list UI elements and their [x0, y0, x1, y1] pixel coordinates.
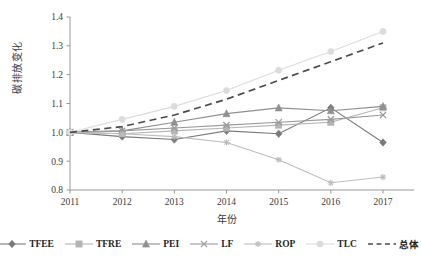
legend-item-总体[interactable]: 总体: [367, 237, 421, 251]
data-point-asterisk: [171, 134, 177, 140]
legend-glyph-TFRE: [64, 237, 94, 251]
data-point-circle: [171, 103, 177, 109]
data-point-diamond: [9, 240, 16, 247]
y-tick-label: 1.4: [51, 12, 63, 22]
data-point-circle: [276, 67, 282, 73]
data-point-circle: [328, 49, 334, 55]
data-point-asterisk: [255, 241, 261, 247]
legend-label-总体: 总体: [399, 237, 419, 251]
x-tick-label: 2014: [217, 197, 236, 207]
legend-label-PEI: PEI: [163, 239, 179, 249]
y-tick-label: 0.8: [51, 185, 63, 195]
data-point-asterisk: [276, 157, 282, 163]
series-TLC: [67, 28, 386, 135]
circle-marker: [328, 49, 334, 55]
legend-item-TLC[interactable]: TLC: [305, 237, 359, 251]
x-tick-label: 2016: [321, 197, 340, 207]
diamond-marker: [380, 139, 387, 146]
circle-marker: [223, 87, 229, 93]
legend-label-TLC: TLC: [337, 239, 357, 249]
data-point-circle: [119, 116, 125, 122]
x-tick-label: 2012: [113, 197, 132, 207]
legend-item-TFEE[interactable]: TFEE: [0, 237, 56, 251]
diamond-marker: [275, 130, 282, 137]
line-chart-svg: 0.80.91.01.11.21.31.42011201220132014201…: [0, 0, 418, 225]
x-tick-label: 2017: [374, 197, 393, 207]
square-marker: [76, 241, 82, 247]
data-point-diamond: [275, 130, 282, 137]
y-tick-label: 1.1: [51, 99, 63, 109]
legend-label-TFRE: TFRE: [96, 239, 121, 249]
legend-glyph-LF: [189, 237, 219, 251]
data-point-asterisk: [328, 180, 334, 186]
chart-legend: TFEETFREPEILFROPTLC总体: [0, 232, 418, 256]
data-point-circle: [223, 87, 229, 93]
circle-marker: [380, 28, 386, 34]
data-point-circle: [380, 28, 386, 34]
legend-item-TFRE[interactable]: TFRE: [64, 237, 123, 251]
series-ROP: [67, 129, 386, 186]
y-tick-label: 1.3: [51, 41, 63, 51]
x-tick-label: 2011: [61, 197, 80, 207]
x-tick-label: 2013: [165, 197, 184, 207]
legend-glyph-TFEE: [0, 237, 27, 251]
series-line-TLC: [70, 31, 383, 132]
y-tick-label: 1.2: [51, 70, 63, 80]
data-point-asterisk: [119, 131, 125, 137]
y-tick-label: 1.0: [51, 128, 63, 138]
data-point-circle: [317, 241, 323, 247]
data-point-diamond: [380, 139, 387, 146]
circle-marker: [276, 67, 282, 73]
y-axis-label: 碳排放变化: [9, 18, 24, 118]
y-tick-label: 0.9: [51, 157, 63, 167]
data-point-asterisk: [223, 139, 229, 145]
legend-glyph-ROP: [243, 237, 273, 251]
legend-label-TFEE: TFEE: [29, 239, 54, 249]
legend-glyph-PEI: [131, 237, 161, 251]
legend-glyph-TLC: [305, 237, 335, 251]
legend-item-LF[interactable]: LF: [189, 237, 235, 251]
x-axis-label: 年份: [217, 213, 237, 225]
circle-marker: [317, 241, 323, 247]
legend-label-LF: LF: [221, 239, 233, 249]
legend-label-ROP: ROP: [275, 239, 295, 249]
diamond-marker: [9, 240, 16, 247]
circle-marker: [171, 103, 177, 109]
x-tick-label: 2015: [269, 197, 288, 207]
plot-area: 碳排放变化 0.80.91.01.11.21.31.42011201220132…: [0, 0, 418, 225]
legend-glyph-总体: [367, 237, 397, 251]
data-point-asterisk: [380, 174, 386, 180]
data-point-square: [76, 241, 82, 247]
circle-marker: [119, 116, 125, 122]
legend-item-ROP[interactable]: ROP: [243, 237, 297, 251]
legend-item-PEI[interactable]: PEI: [131, 237, 181, 251]
